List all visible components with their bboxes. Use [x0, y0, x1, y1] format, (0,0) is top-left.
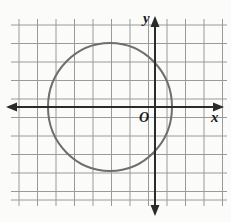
origin-label: O — [139, 110, 149, 125]
figure-canvas: y x O — [0, 0, 231, 222]
x-axis-label: x — [210, 109, 219, 125]
y-axis-label: y — [141, 10, 150, 26]
coordinate-plane-figure: y x O — [0, 0, 231, 222]
figure-background — [0, 0, 231, 222]
